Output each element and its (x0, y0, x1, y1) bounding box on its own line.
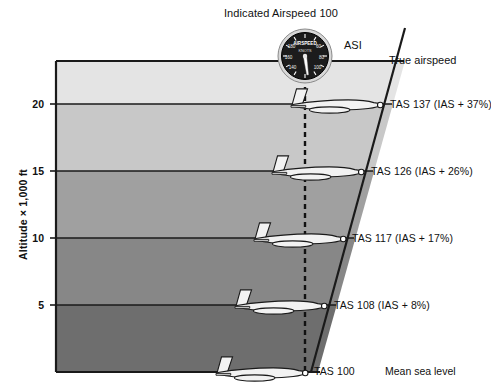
svg-text:140: 140 (289, 65, 297, 70)
aircraft-horizontal-stabilizer (254, 239, 269, 241)
asi-label: ASI (344, 40, 362, 51)
aircraft-nose-marker (358, 169, 364, 175)
svg-text:60: 60 (316, 44, 322, 49)
aircraft-nose-marker (340, 236, 346, 242)
aircraft-horizontal-stabilizer (235, 306, 250, 308)
asi-gauge: 180 60 160 80 140 100 AIRSPEED KNOTS (278, 29, 332, 83)
aircraft-wing (253, 308, 293, 314)
aircraft-nose-marker (377, 102, 383, 108)
tas-label-10000ft: TAS 117 (IAS + 17%) (352, 233, 453, 244)
true-airspeed-label: True airspeed (389, 55, 456, 66)
indicated-airspeed-title: Indicated Airspeed 100 (224, 8, 338, 19)
tas-label-sea-level: TAS 100 (314, 366, 355, 377)
aircraft-horizontal-stabilizer (291, 105, 306, 107)
band-0-to-5 (56, 305, 416, 373)
aircraft-horizontal-stabilizer (216, 373, 231, 375)
y-tick-label-20: 20 (22, 99, 44, 110)
aircraft-wing (272, 241, 312, 247)
asi-unit-label: KNOTS (298, 49, 312, 53)
band-20-to-top (56, 61, 416, 104)
asi-face-title: AIRSPEED (293, 41, 317, 46)
aircraft-wing (290, 174, 330, 180)
tas-label-20000ft: TAS 137 (IAS + 37%) (390, 99, 491, 110)
aircraft-wing (309, 107, 349, 113)
asi-needle-hub (303, 54, 307, 58)
mean-sea-level-label: Mean sea level (385, 366, 456, 377)
tas-vs-altitude-figure: 180 60 160 80 140 100 AIRSPEED KNOTS Ind… (0, 0, 491, 391)
band-15-to-20 (56, 104, 416, 171)
y-tick-label-5: 5 (22, 300, 44, 311)
aircraft-horizontal-stabilizer (272, 172, 287, 174)
y-axis-title: Altitude × 1,000 ft (18, 169, 29, 260)
aircraft-nose-marker (302, 370, 308, 376)
tas-label-15000ft: TAS 126 (IAS + 26%) (371, 166, 473, 177)
band-10-to-15 (56, 171, 416, 238)
band-5-to-10 (56, 238, 416, 305)
aircraft-wing (234, 375, 274, 381)
svg-text:80: 80 (319, 55, 325, 60)
tas-label-5000ft: TAS 108 (IAS + 8%) (334, 300, 430, 311)
aircraft-nose-marker (321, 303, 327, 309)
svg-text:100: 100 (314, 65, 322, 70)
svg-text:160: 160 (285, 55, 293, 60)
